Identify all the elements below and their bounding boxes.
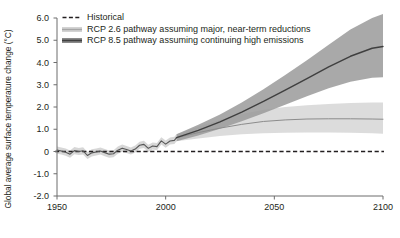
x-tick-label: 2100 — [363, 202, 400, 212]
y-tick-label: -1.0 — [19, 169, 49, 179]
legend-item-rcp26: RCP 2.6 pathway assuming major, near-ter… — [62, 24, 362, 36]
y-tick-label: 0 — [19, 147, 49, 157]
y-tick-label: 4.0 — [19, 58, 49, 68]
light-line-swatch — [62, 24, 82, 35]
legend-label-rcp26: RCP 2.6 pathway assuming major, near-ter… — [87, 24, 310, 35]
y-tick-label: 2.0 — [19, 102, 49, 112]
y-tick-label: 6.0 — [19, 13, 49, 23]
y-tick-label: -2.0 — [19, 191, 49, 201]
climate-projection-chart: Global average surface temperature chang… — [0, 0, 400, 238]
legend-label-historical: Historical — [87, 12, 124, 23]
y-tick-label: 3.0 — [19, 80, 49, 90]
legend-item-rcp85: RCP 8.5 pathway assuming continuing high… — [62, 35, 362, 47]
y-tick-label: 1.0 — [19, 124, 49, 134]
y-tick-label: 5.0 — [19, 35, 49, 45]
x-tick-label: 2050 — [254, 202, 294, 212]
legend-item-historical: Historical — [62, 12, 362, 24]
legend-label-rcp85: RCP 8.5 pathway assuming continuing high… — [87, 35, 303, 46]
x-tick-label: 2000 — [146, 202, 186, 212]
x-tick-label: 1950 — [37, 202, 77, 212]
historical-uncertainty-band — [57, 134, 177, 159]
chart-legend: Historical RCP 2.6 pathway assuming majo… — [62, 12, 362, 47]
dashed-line-swatch — [62, 12, 82, 23]
dark-line-swatch — [62, 35, 82, 46]
